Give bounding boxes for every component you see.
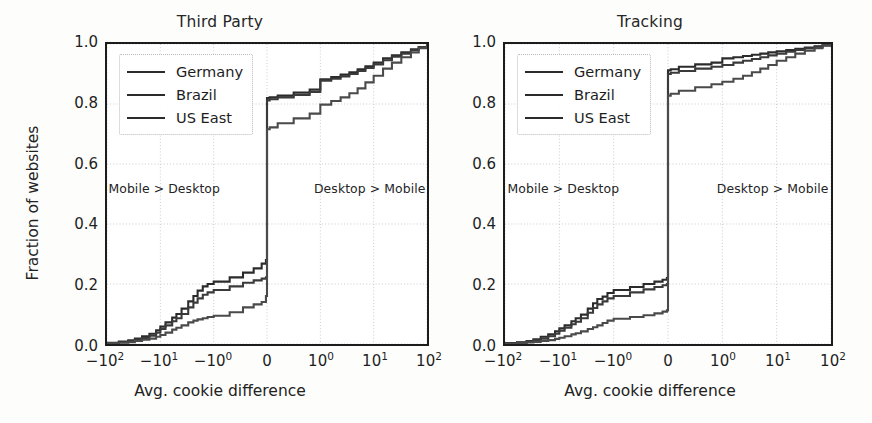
x-tick-label: −102	[86, 352, 124, 370]
legend: Germany Brazil US East	[517, 54, 651, 135]
y-tick-label: 0.6	[472, 155, 496, 173]
y-tick-label: 0.2	[74, 276, 98, 294]
legend-item-brazil[interactable]: Brazil	[525, 83, 641, 106]
x-tick-label: −101	[539, 352, 577, 370]
chart-panel-tracking: Tracking 0.00.20.40.60.81.0 −102−101−100…	[436, 0, 872, 423]
y-tick-label: 1.0	[74, 33, 98, 51]
legend-label: Brazil	[574, 86, 615, 103]
x-tick-label: −101	[140, 352, 178, 370]
y-tick-label: 0.4	[472, 215, 496, 233]
y-axis-label: Fraction of websites	[24, 103, 42, 303]
plot-annotation: Mobile > Desktop	[108, 180, 220, 195]
legend-item-us-east[interactable]: US East	[525, 106, 641, 129]
figure-canvas: Third Party Fraction of websites 0.00.20…	[0, 0, 872, 423]
legend-line-icon	[127, 71, 165, 73]
plot-annotation: Mobile > Desktop	[508, 180, 620, 195]
legend: Germany Brazil US East	[119, 54, 253, 135]
legend-line-icon	[525, 117, 563, 119]
legend-item-germany[interactable]: Germany	[127, 60, 243, 83]
y-tick-label: 0.8	[74, 94, 98, 112]
x-tick-label: 101	[765, 352, 791, 370]
x-axis-label: Avg. cookie difference	[432, 382, 868, 400]
y-tick-labels: 0.00.20.40.60.81.0	[46, 42, 98, 346]
panel-title: Third Party	[2, 13, 438, 31]
y-tick-labels: 0.00.20.40.60.81.0	[444, 42, 496, 346]
x-tick-label: 100	[308, 352, 334, 370]
x-tick-label: 0	[262, 352, 272, 370]
legend-item-germany[interactable]: Germany	[525, 60, 641, 83]
legend-line-icon	[127, 117, 165, 119]
legend-line-icon	[525, 71, 563, 73]
x-tick-label: 102	[820, 352, 846, 370]
x-tick-label: −102	[484, 352, 522, 370]
y-tick-label: 0.6	[74, 155, 98, 173]
x-tick-label: 0	[663, 352, 673, 370]
legend-label: Brazil	[176, 86, 217, 103]
y-tick-label: 0.2	[472, 276, 496, 294]
chart-panel-third-party: Third Party Fraction of websites 0.00.20…	[0, 0, 436, 423]
x-tick-label: −100	[594, 352, 632, 370]
legend-label: US East	[176, 109, 232, 126]
y-tick-label: 0.8	[472, 94, 496, 112]
x-tick-label: 101	[362, 352, 388, 370]
y-tick-label: 0.4	[74, 215, 98, 233]
x-axis-label: Avg. cookie difference	[2, 382, 438, 400]
x-tick-label: 100	[710, 352, 736, 370]
plot-annotation: Desktop > Mobile	[717, 180, 829, 195]
legend-item-brazil[interactable]: Brazil	[127, 83, 243, 106]
y-tick-label: 1.0	[472, 33, 496, 51]
legend-label: US East	[574, 109, 630, 126]
x-tick-label: −100	[194, 352, 232, 370]
legend-line-icon	[127, 94, 165, 96]
legend-line-icon	[525, 94, 563, 96]
legend-item-us-east[interactable]: US East	[127, 106, 243, 129]
legend-label: Germany	[574, 63, 641, 80]
plot-annotation: Desktop > Mobile	[314, 180, 426, 195]
legend-label: Germany	[176, 63, 243, 80]
panel-title: Tracking	[432, 13, 868, 31]
